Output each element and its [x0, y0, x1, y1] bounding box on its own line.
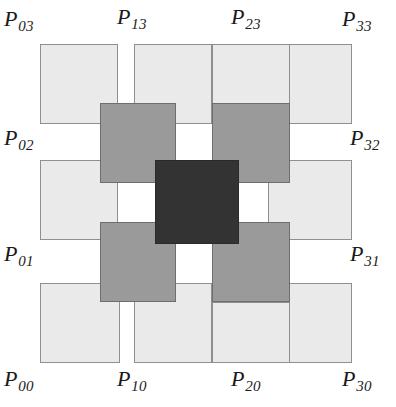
label-p00-base: P — [4, 366, 18, 391]
label-p02-base: P — [4, 125, 18, 150]
label-p33: P33 — [342, 8, 371, 30]
label-p01: P01 — [4, 243, 33, 265]
label-p03: P03 — [4, 8, 33, 30]
label-p23-subscript: 23 — [245, 16, 261, 32]
label-p30: P30 — [342, 368, 371, 390]
label-p32-base: P — [350, 125, 364, 150]
label-p31-base: P — [350, 241, 364, 266]
label-p23: P23 — [231, 6, 260, 28]
label-p10-base: P — [117, 366, 131, 391]
label-p20-subscript: 20 — [245, 378, 261, 394]
label-p23-base: P — [231, 4, 245, 29]
label-p13-base: P — [117, 4, 131, 29]
label-p32-subscript: 32 — [364, 137, 380, 153]
label-p03-base: P — [4, 6, 18, 31]
label-p32: P32 — [350, 127, 379, 149]
label-p20: P20 — [231, 368, 260, 390]
label-p00-subscript: 00 — [18, 378, 34, 394]
label-p10: P10 — [117, 368, 146, 390]
label-p30-subscript: 30 — [356, 378, 372, 394]
label-p20-base: P — [231, 366, 245, 391]
label-p00: P00 — [4, 368, 33, 390]
label-p02-subscript: 02 — [18, 137, 34, 153]
tile-center — [155, 160, 239, 244]
label-p10-subscript: 10 — [131, 378, 147, 394]
label-p30-base: P — [342, 366, 356, 391]
label-p13-subscript: 13 — [131, 16, 147, 32]
tile-outer-bottom-second — [212, 302, 290, 363]
label-p33-base: P — [342, 6, 356, 31]
label-p33-subscript: 33 — [356, 18, 372, 34]
label-p31: P31 — [350, 243, 379, 265]
label-p13: P13 — [117, 6, 146, 28]
label-p02: P02 — [4, 127, 33, 149]
control-point-grid-figure: P03P13P23P33P02P32P01P31P00P10P20P30 — [0, 0, 396, 407]
label-p01-subscript: 01 — [18, 253, 34, 269]
tile-outer-top-second — [212, 44, 290, 104]
label-p01-base: P — [4, 241, 18, 266]
label-p31-subscript: 31 — [364, 253, 380, 269]
label-p03-subscript: 03 — [18, 18, 34, 34]
